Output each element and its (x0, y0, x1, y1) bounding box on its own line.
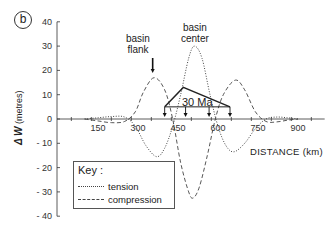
legend-item-tension: tension (78, 181, 139, 192)
load-arrow-icon-head (163, 113, 167, 117)
panel-label: b (14, 11, 32, 29)
legend-label: compression (108, 194, 162, 205)
y-tick-label: 40 (42, 17, 52, 27)
y-axis-units: (metres) (14, 90, 24, 124)
y-tick-label: - 30 (36, 187, 52, 197)
basin-center-line1: basin (181, 22, 209, 33)
dashed-line-swatch-icon (78, 199, 104, 200)
y-axis-symbol: Δ W (13, 126, 24, 145)
basin-flank-arrow-icon-head (151, 69, 155, 73)
y-tick-label: - 10 (36, 138, 52, 148)
x-tick-label: 900 (290, 123, 305, 133)
basin-flank-line1: basin (126, 33, 150, 44)
legend-label: tension (108, 181, 139, 192)
basin-center-annotation: basin center (181, 22, 209, 44)
y-axis-label: Δ W (metres) (13, 90, 24, 145)
x-tick-label: 150 (90, 123, 105, 133)
x-tick-label: 750 (250, 123, 265, 133)
basin-center-line2: center (181, 33, 209, 44)
load-arrow-icon-head (228, 113, 232, 117)
legend: Key : tension compression (73, 161, 175, 209)
y-tick-label: - 40 (36, 211, 52, 221)
y-tick-label: - 20 (36, 163, 52, 173)
load-age-label: 30 Ma (182, 96, 213, 108)
legend-title: Key : (78, 164, 103, 176)
y-tick-label: 20 (42, 65, 52, 75)
basin-flank-annotation: basin flank (126, 33, 150, 55)
y-tick-label: 30 (42, 41, 52, 51)
annotation-arrows (151, 58, 232, 117)
legend-item-compression: compression (78, 194, 162, 205)
x-tick-label: 450 (170, 123, 185, 133)
dotted-line-swatch-icon (78, 186, 104, 187)
load-arrow-icon-head (207, 113, 211, 117)
basin-flank-line2: flank (126, 44, 150, 55)
y-tick-label: 0 (47, 114, 52, 124)
y-tick-label: 10 (42, 90, 52, 100)
x-axis-label: DISTANCE (km) (250, 146, 323, 157)
load-arrow-icon-head (184, 113, 188, 117)
